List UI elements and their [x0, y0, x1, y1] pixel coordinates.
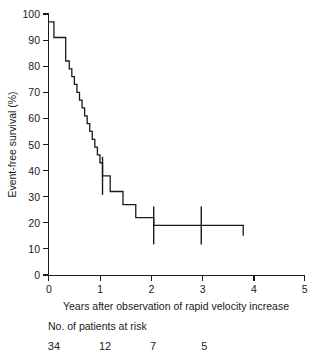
- y-tick-label-20: 20: [28, 217, 40, 229]
- kaplan-meier-figure: 100 90 80 70 60 50 40 30 20 10 0 Event-f…: [0, 0, 324, 358]
- risk-count: 34: [48, 340, 60, 352]
- y-tick-label-90: 90: [28, 34, 40, 46]
- x-tick-label-3: 3: [200, 283, 206, 295]
- y-tick-label-80: 80: [28, 60, 40, 72]
- y-tick-label-0: 0: [34, 269, 40, 281]
- y-tick-label-50: 50: [28, 139, 40, 151]
- y-tick-label-10: 10: [28, 243, 40, 255]
- y-tick-label-60: 60: [28, 112, 40, 124]
- x-tick-label-0: 0: [46, 283, 52, 295]
- y-tick-label-30: 30: [28, 191, 40, 203]
- chart-canvas: 100 90 80 70 60 50 40 30 20 10 0 Event-f…: [0, 0, 324, 358]
- y-tick-label-100: 100: [22, 8, 40, 20]
- x-tick-label-2: 2: [148, 283, 154, 295]
- x-tick-label-4: 4: [251, 283, 257, 295]
- risk-count: 5: [201, 340, 207, 352]
- risk-count: 7: [150, 340, 156, 352]
- y-tick-label-40: 40: [28, 165, 40, 177]
- y-tick-label-70: 70: [28, 86, 40, 98]
- risk-table-title: No. of patients at risk: [48, 320, 147, 332]
- risk-count: 12: [99, 340, 111, 352]
- y-axis-title: Event-free survival (%): [6, 91, 18, 197]
- x-axis-title: Years after observation of rapid velocit…: [63, 300, 289, 312]
- x-tick-label-1: 1: [97, 283, 103, 295]
- x-tick-label-5: 5: [302, 283, 308, 295]
